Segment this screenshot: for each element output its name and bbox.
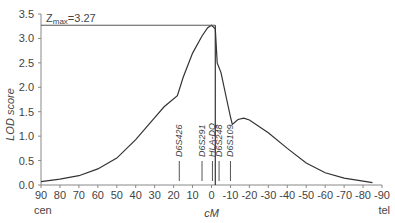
svg-text:40: 40 xyxy=(130,189,142,201)
svg-text:D6S291: D6S291 xyxy=(197,124,207,157)
svg-text:1.0: 1.0 xyxy=(19,130,34,142)
svg-text:-70: -70 xyxy=(336,189,352,201)
svg-text:90: 90 xyxy=(35,189,47,201)
lod-score-chart: 0.00.51.01.52.02.53.03.5 908070605040302… xyxy=(0,0,395,223)
svg-text:60: 60 xyxy=(92,189,104,201)
svg-text:-10: -10 xyxy=(222,189,238,201)
svg-text:-20: -20 xyxy=(241,189,257,201)
svg-text:0.5: 0.5 xyxy=(19,155,34,167)
marker-d6s291: D6S291 xyxy=(197,124,207,181)
svg-text:D6S109: D6S109 xyxy=(225,124,235,157)
tel-label: tel xyxy=(378,204,390,216)
svg-text:-40: -40 xyxy=(279,189,295,201)
svg-text:2.0: 2.0 xyxy=(19,81,34,93)
svg-text:3.0: 3.0 xyxy=(19,32,34,44)
svg-text:-60: -60 xyxy=(317,189,333,201)
svg-text:50: 50 xyxy=(111,189,123,201)
svg-text:1.5: 1.5 xyxy=(19,106,34,118)
zmax-annotation: Zmax=3.27 xyxy=(46,12,96,26)
marker-d6s109: D6S109 xyxy=(225,124,235,181)
svg-text:0: 0 xyxy=(208,189,214,201)
svg-text:-50: -50 xyxy=(298,189,314,201)
x-tick-labels: 9080706050403020100-10-20-30-40-50-60-70… xyxy=(35,189,390,201)
svg-text:0.0: 0.0 xyxy=(19,179,34,191)
lod-curve xyxy=(41,25,373,182)
marker-d6s426: D6S426 xyxy=(174,124,184,181)
svg-text:80: 80 xyxy=(54,189,66,201)
svg-text:30: 30 xyxy=(149,189,161,201)
svg-text:-30: -30 xyxy=(260,189,276,201)
cen-label: cen xyxy=(34,204,52,216)
svg-text:3.5: 3.5 xyxy=(19,8,34,20)
svg-text:D6S426: D6S426 xyxy=(174,124,184,157)
marker-labels: D6S426D6S291HLA-DQD6S248D6S109 xyxy=(174,123,235,181)
svg-text:20: 20 xyxy=(167,189,179,201)
svg-text:10: 10 xyxy=(186,189,198,201)
svg-text:-80: -80 xyxy=(355,189,371,201)
axes xyxy=(38,14,382,188)
svg-text:-90: -90 xyxy=(374,189,390,201)
x-axis-label: cM xyxy=(204,207,220,219)
svg-text:70: 70 xyxy=(73,189,85,201)
svg-text:2.5: 2.5 xyxy=(19,57,34,69)
y-axis-label: LOD score xyxy=(4,88,16,141)
y-tick-labels: 0.00.51.01.52.02.53.03.5 xyxy=(19,8,34,191)
